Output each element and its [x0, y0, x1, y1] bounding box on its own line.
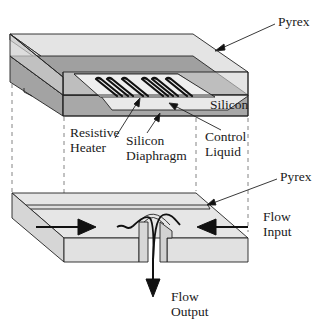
label-control-liquid-2: Liquid	[205, 145, 241, 159]
label-control-liquid-1: Control	[205, 130, 246, 144]
label-resistive-heater-1: Resistive	[70, 126, 120, 140]
label-silicon-diaphragm-2: Diaphragm	[126, 149, 187, 163]
label-pyrex-bottom: Pyrex	[280, 170, 312, 184]
label-flow-output-2: Output	[171, 305, 209, 319]
label-resistive-heater-2: Heater	[70, 141, 106, 155]
label-flow-output-1: Flow	[171, 290, 199, 304]
label-silicon-diaphragm-1: Silicon	[126, 134, 164, 148]
label-flow-input-1: Flow	[263, 210, 291, 224]
label-flow-input-2: Input	[263, 225, 292, 239]
flow-output-arrowhead	[146, 279, 160, 297]
bottom-front-right	[167, 238, 248, 262]
microvalve-diagram: Pyrex Silicon Resistive Heater Silicon D…	[0, 0, 324, 322]
label-silicon: Silicon	[210, 98, 248, 112]
label-pyrex-top: Pyrex	[278, 15, 310, 29]
bottom-front-left	[64, 238, 139, 262]
